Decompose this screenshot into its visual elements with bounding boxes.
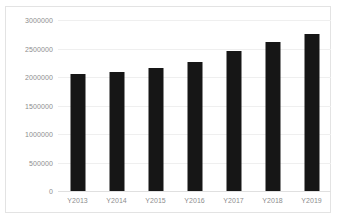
y-axis-tick-label: 2000000 bbox=[25, 74, 53, 81]
x-axis-tick-label: Y2019 bbox=[301, 197, 322, 204]
x-axis-tick-label: Y2016 bbox=[184, 197, 205, 204]
x-axis-tick-label: Y2017 bbox=[223, 197, 244, 204]
y-axis-tick-label: 3000000 bbox=[25, 17, 53, 24]
x-axis-tick-label: Y2018 bbox=[262, 197, 283, 204]
bar bbox=[265, 42, 280, 191]
y-axis-tick-label: 0 bbox=[49, 188, 53, 195]
bar bbox=[148, 68, 163, 191]
y-axis-tick-label: 1500000 bbox=[25, 102, 53, 109]
gridline bbox=[58, 20, 331, 21]
bar bbox=[70, 74, 85, 191]
x-axis-tick-label: Y2015 bbox=[145, 197, 166, 204]
y-axis-tick-label: 500000 bbox=[29, 159, 53, 166]
x-axis-tick-label: Y2013 bbox=[67, 197, 88, 204]
bar bbox=[226, 51, 241, 191]
chart-frame: 0500000100000015000002000000250000030000… bbox=[5, 6, 331, 213]
gridline bbox=[58, 49, 331, 50]
axis-baseline bbox=[58, 191, 331, 192]
x-axis-tick-label: Y2014 bbox=[106, 197, 127, 204]
plot-area: 0500000100000015000002000000250000030000… bbox=[58, 20, 331, 191]
y-axis-tick-label: 2500000 bbox=[25, 45, 53, 52]
bar bbox=[187, 62, 202, 191]
bar bbox=[304, 34, 319, 191]
bar bbox=[109, 72, 124, 191]
y-axis-tick-label: 1000000 bbox=[25, 131, 53, 138]
